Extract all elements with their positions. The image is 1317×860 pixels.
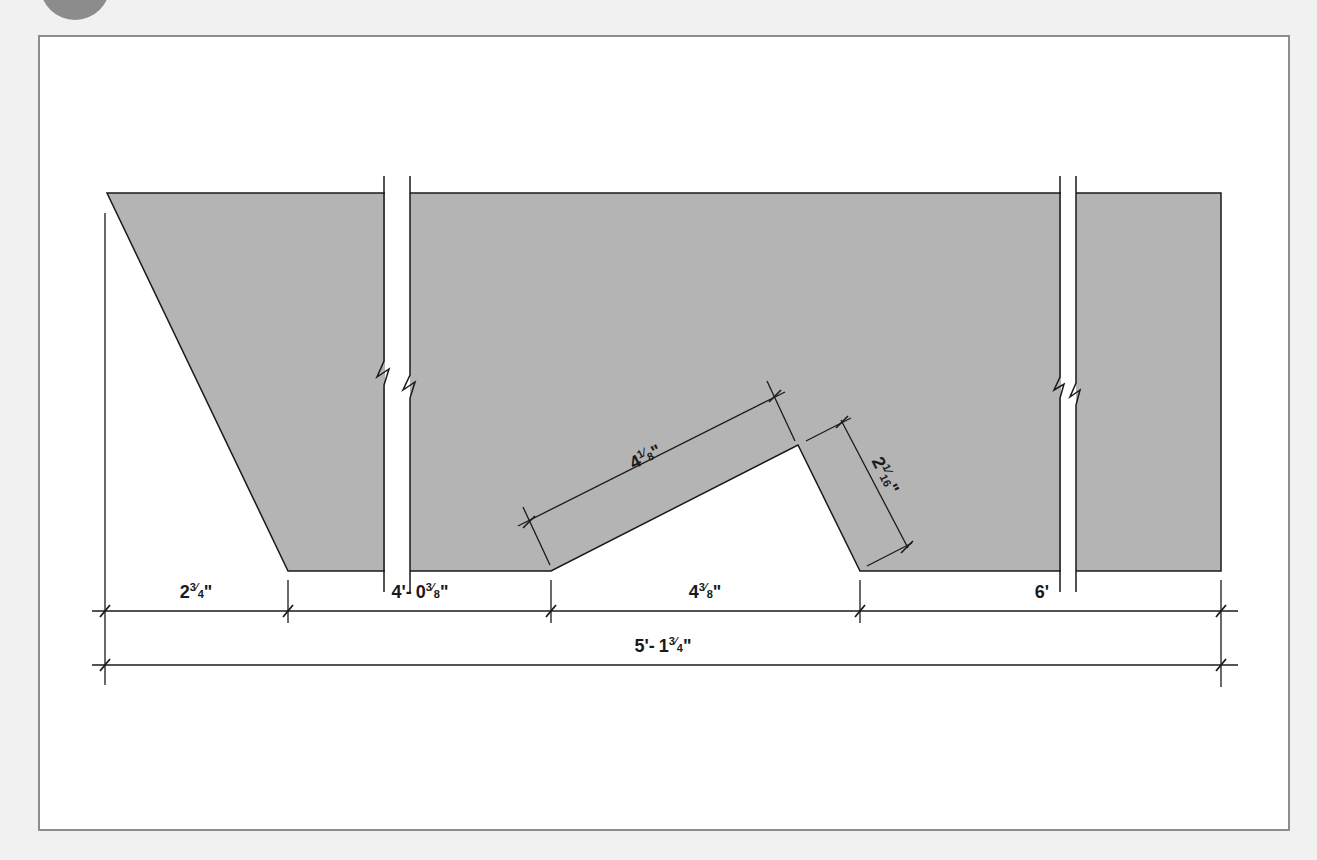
dimensioned-drawing: 23⁄4" 4'-03⁄8" 43⁄8" 6' 5'-13⁄4" 41⁄8" 2…	[0, 0, 1317, 860]
dimension-label-segment-3: 43⁄8"	[689, 581, 722, 602]
shape-body	[107, 193, 1221, 571]
dimension-label-segment-1: 23⁄4"	[180, 581, 213, 602]
dimension-label-overall: 5'-13⁄4"	[635, 635, 692, 656]
dimension-label-segment-2: 4'-03⁄8"	[392, 581, 449, 602]
dimension-label-segment-4: 6'	[1035, 582, 1049, 602]
